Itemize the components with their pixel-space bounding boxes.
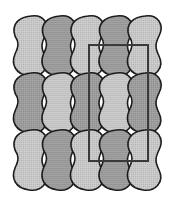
peanut-tile [42, 16, 76, 77]
peanut-tile [71, 73, 105, 134]
peanut-tile [42, 73, 76, 134]
tile-group [14, 16, 162, 191]
peanut-tile [99, 73, 133, 134]
tiling-canvas [0, 0, 182, 199]
peanut-tile [14, 130, 48, 191]
peanut-tile [14, 73, 48, 134]
tiling-diagram [0, 0, 182, 199]
peanut-tile [42, 130, 76, 191]
peanut-tile [14, 16, 48, 77]
peanut-tile [128, 73, 162, 134]
